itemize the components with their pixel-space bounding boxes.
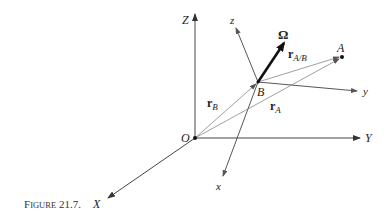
- omega-vector: [258, 43, 284, 82]
- X-axis: [108, 138, 195, 198]
- diagram-canvas: Z Y X O z y x B A Ω rB rA rA/B FIGURE21.…: [0, 0, 390, 220]
- label-rAB: rA/B: [288, 47, 307, 63]
- label-B: B: [257, 85, 265, 99]
- label-Y: Y: [365, 131, 373, 145]
- label-rB: rB: [207, 96, 218, 112]
- x-axis: [223, 82, 258, 176]
- y-axis: [258, 82, 357, 91]
- label-A: A: [336, 41, 345, 55]
- label-rA: rA: [270, 99, 281, 115]
- z-axis: [236, 28, 258, 82]
- label-x: x: [215, 180, 221, 192]
- point-B: [256, 80, 259, 83]
- label-X: X: [92, 197, 101, 211]
- point-A: [340, 55, 344, 59]
- label-O: O: [181, 131, 190, 145]
- label-Z: Z: [182, 13, 189, 27]
- point-O: [193, 136, 197, 140]
- rA-vector: [195, 59, 339, 138]
- label-y: y: [362, 85, 368, 97]
- label-omega: Ω: [278, 27, 288, 42]
- label-z: z: [229, 14, 235, 26]
- figure-caption: FIGURE21.7.: [24, 198, 81, 210]
